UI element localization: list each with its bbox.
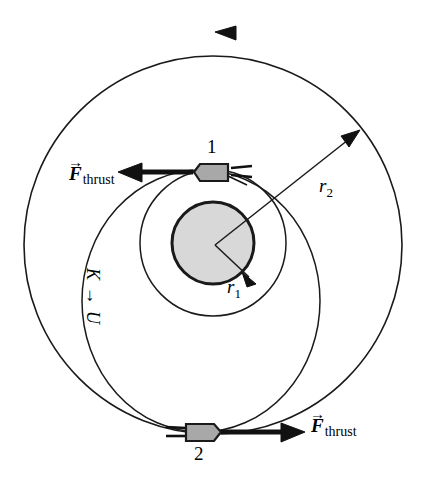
spacecraft-2-body [186, 424, 221, 441]
right-arrow-icon: → [83, 287, 103, 306]
energy-potential-symbol: U [83, 311, 103, 325]
radius-r1-subscript: 1 [234, 286, 241, 301]
thrust-arrow-top-head [118, 163, 142, 182]
spacecraft-1-body [194, 164, 228, 181]
radius-r1-label: r1 [227, 276, 241, 302]
spacecraft-1-antenna-lower [231, 175, 252, 177]
thrust-arrow-bottom-head [281, 423, 305, 442]
radius-r2-subscript: 2 [326, 185, 333, 200]
thrust-force-label-bottom: →Fthrust [311, 415, 357, 440]
radius-r2-arrowhead [341, 130, 360, 147]
thrust-force-label-top: →Fthrust [69, 163, 115, 188]
spacecraft-2-number-label: 2 [194, 443, 204, 465]
spacecraft-2 [166, 424, 221, 441]
thrust-top-symbol-group: →F [69, 163, 82, 185]
spacecraft-2-antenna-upper [166, 427, 186, 428]
orbit-direction-arrowhead [215, 26, 236, 40]
vector-arrow-icon: → [310, 410, 325, 419]
energy-kinetic-symbol: K [83, 268, 103, 281]
radius-r2-label: r2 [319, 175, 333, 201]
thrust-top-subscript: thrust [83, 172, 115, 187]
spacecraft-1-antenna-upper [231, 166, 252, 168]
thrust-bottom-subscript: thrust [325, 424, 357, 439]
energy-conversion-label: K → U [82, 268, 103, 325]
spacecraft-1-number-label: 1 [207, 136, 217, 158]
thrust-bottom-symbol-group: →F [311, 415, 324, 437]
radius-r1-arrowhead [242, 272, 256, 287]
thrust-arrow-bottom [221, 423, 305, 442]
spacecraft-1 [194, 164, 252, 185]
orbit-diagram-figure: 1 2 →Fthrust →Fthrust r2 r1 K → U [0, 0, 424, 495]
diagram-canvas [0, 0, 424, 495]
vector-arrow-icon: → [68, 158, 83, 167]
